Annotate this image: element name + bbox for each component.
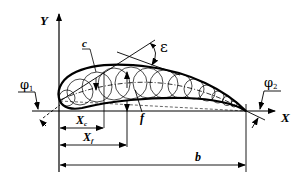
thickness-indicator [127, 72, 142, 147]
chord-label: b [195, 150, 201, 164]
xc-label: Xc [75, 113, 87, 128]
x-axis-label: X [280, 110, 290, 125]
camber-label: c [82, 37, 87, 49]
epsilon-angle-arc [150, 43, 156, 65]
xf-label: Xf [82, 130, 94, 145]
y-axis-label: Y [40, 13, 49, 28]
epsilon-label: ε [160, 38, 168, 56]
inlet-angle-label: φ1 [20, 77, 34, 93]
thickness-label: f [140, 111, 145, 125]
airfoil-profile [59, 65, 247, 111]
outlet-angle-label: φ2 [264, 75, 278, 91]
airfoil-diagram: Y X ε [0, 0, 304, 181]
inlet-angle-indicator [18, 92, 60, 126]
